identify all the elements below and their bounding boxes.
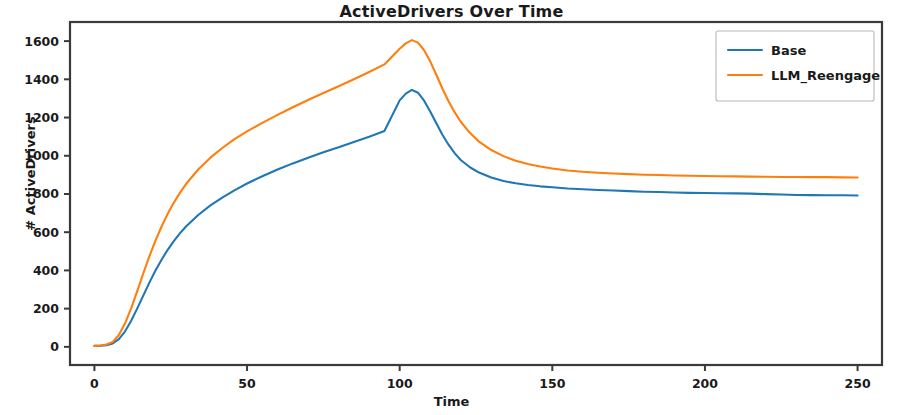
x-tick-label: 250 — [845, 376, 871, 391]
legend-label-llm-reengage: LLM_Reengage — [771, 68, 880, 84]
x-tick-label: 150 — [539, 376, 565, 391]
y-axis-label: # ActiveDrivers — [23, 84, 38, 264]
x-tick-label: 200 — [692, 376, 718, 391]
x-tick-label: 50 — [238, 376, 256, 391]
y-tick-label: 0 — [50, 339, 59, 354]
y-tick-label: 200 — [33, 301, 59, 316]
legend-label-base: Base — [771, 43, 806, 58]
chart-legend[interactable]: BaseLLM_Reengage — [716, 31, 880, 101]
x-tick-label: 100 — [387, 376, 413, 391]
plot-area: 050100150200250 020040060080010001200140… — [0, 0, 903, 415]
x-axis-label: Time — [0, 394, 903, 409]
x-tick-label: 0 — [90, 376, 99, 391]
y-tick-label: 400 — [33, 263, 59, 278]
series-line-base — [94, 90, 857, 346]
x-axis-ticks: 050100150200250 — [90, 365, 871, 391]
chart-figure: ActiveDrivers Over Time 050100150200250 … — [0, 0, 903, 415]
legend-frame — [716, 31, 874, 101]
y-tick-label: 1600 — [24, 34, 59, 49]
